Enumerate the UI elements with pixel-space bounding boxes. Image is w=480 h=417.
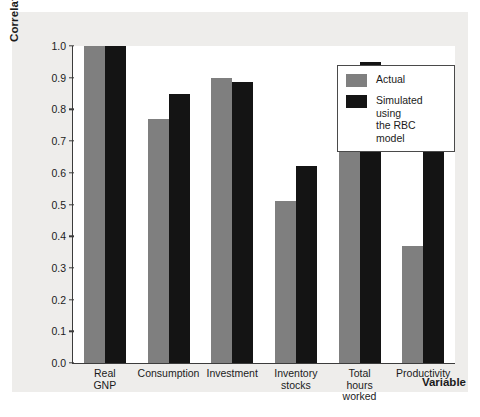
bar-simulated <box>105 46 126 363</box>
plot-canvas: 1.00.90.80.70.60.50.40.30.20.10.0 Real G… <box>72 46 455 364</box>
y-axis-tick: 0.8 <box>51 103 73 115</box>
bar-actual <box>402 246 423 363</box>
bar-actual <box>148 119 169 363</box>
y-axis-title: Correlation <box>8 0 20 42</box>
bar-actual <box>84 46 105 363</box>
bar-group: Consumption <box>137 46 201 363</box>
legend-item: Actual <box>346 73 444 87</box>
x-axis-tick-label: Inventory stocks <box>274 368 317 391</box>
legend-swatch-actual <box>346 74 367 87</box>
y-axis-tick: 0.4 <box>51 230 73 242</box>
y-axis-tick: 0.5 <box>51 199 73 211</box>
y-axis-tick: 0.7 <box>51 135 73 147</box>
y-axis-tick: 0.6 <box>51 167 73 179</box>
x-axis-tick-label: Investment <box>206 368 257 380</box>
y-axis-tick: 0.9 <box>51 72 73 84</box>
bar-actual <box>211 78 232 363</box>
legend-label-actual: Actual <box>376 73 405 86</box>
bar-group: Investment <box>200 46 264 363</box>
x-axis-title: Variable <box>422 376 466 388</box>
y-axis-tick: 0.1 <box>51 325 73 337</box>
x-axis-tick-label: Consumption <box>138 368 200 380</box>
bar-actual <box>275 201 296 363</box>
y-axis-tick: 1.0 <box>51 40 73 52</box>
legend-item: Simulated using the RBC model <box>346 94 444 144</box>
legend-label-simulated: Simulated using the RBC model <box>376 94 444 144</box>
figure-panel: Correlation 1.00.90.80.70.60.50.40.30.20… <box>12 12 468 392</box>
x-axis-tick-label: Total hours worked <box>343 368 377 403</box>
bar-simulated <box>296 166 317 363</box>
bar-group: Inventory stocks <box>264 46 328 363</box>
legend-swatch-simulated <box>346 95 367 108</box>
chart-legend: Actual Simulated using the RBC model <box>337 65 455 152</box>
y-axis-tick: 0.2 <box>51 294 73 306</box>
bar-simulated <box>169 94 190 363</box>
x-axis-tick-label: Real GNP <box>89 368 121 391</box>
y-axis-tick: 0.0 <box>51 357 73 369</box>
y-axis-tick: 0.3 <box>51 262 73 274</box>
bar-group: Real GNP <box>73 46 137 363</box>
bar-simulated <box>232 82 253 363</box>
